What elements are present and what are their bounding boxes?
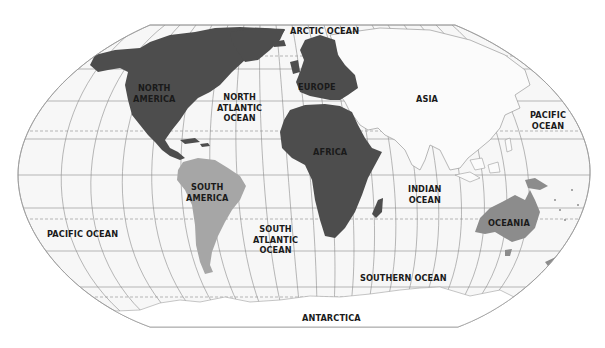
label-line: OCEANIA xyxy=(488,218,530,229)
label-pacific-ocean-west: PACIFIC OCEAN xyxy=(47,229,118,240)
label-oceania: OCEANIA xyxy=(488,218,530,229)
label-line: ANTARCTICA xyxy=(302,313,361,324)
label-line: INDIAN xyxy=(408,184,442,195)
label-line: AFRICA xyxy=(313,147,347,158)
label-line: NORTH xyxy=(217,92,262,103)
label-line: OCEAN xyxy=(408,195,442,206)
label-line: ATLANTIC xyxy=(253,235,298,246)
label-line: ATLANTIC xyxy=(217,103,262,114)
label-asia: ASIA xyxy=(416,94,438,105)
label-southern-ocean: SOUTHERN OCEAN xyxy=(360,273,447,284)
label-arctic-ocean: ARCTIC OCEAN xyxy=(290,26,359,37)
label-south-atlantic-ocean: SOUTH ATLANTIC OCEAN xyxy=(253,224,298,256)
label-line: PACIFIC xyxy=(530,110,566,121)
label-line: OCEAN xyxy=(217,113,262,124)
label-antarctica: ANTARCTICA xyxy=(302,313,361,324)
label-south-america: SOUTH AMERICA xyxy=(186,182,228,203)
label-line: ASIA xyxy=(416,94,438,105)
world-map xyxy=(0,0,605,348)
label-line: NORTH xyxy=(133,83,175,94)
label-line: ARCTIC OCEAN xyxy=(290,26,359,37)
label-africa: AFRICA xyxy=(313,147,347,158)
label-line: AMERICA xyxy=(133,94,175,105)
label-line: SOUTH xyxy=(253,224,298,235)
label-pacific-ocean-east: PACIFIC OCEAN xyxy=(530,110,566,131)
label-europe: EUROPE xyxy=(298,82,336,93)
label-line: OCEAN xyxy=(530,121,566,132)
label-line: SOUTHERN OCEAN xyxy=(360,273,447,284)
label-north-atlantic-ocean: NORTH ATLANTIC OCEAN xyxy=(217,92,262,124)
label-line: SOUTH xyxy=(186,182,228,193)
label-indian-ocean: INDIAN OCEAN xyxy=(408,184,442,205)
label-line: AMERICA xyxy=(186,193,228,204)
label-line: OCEAN xyxy=(253,245,298,256)
label-line: PACIFIC OCEAN xyxy=(47,229,118,240)
label-line: EUROPE xyxy=(298,82,336,93)
label-north-america: NORTH AMERICA xyxy=(133,83,175,104)
